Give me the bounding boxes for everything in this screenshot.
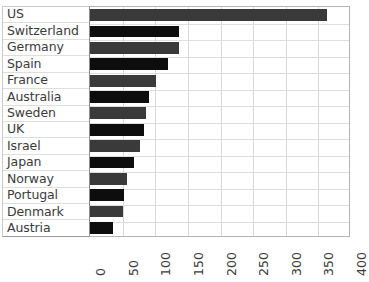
bar bbox=[90, 173, 127, 185]
bar bbox=[90, 157, 134, 169]
bar-row bbox=[90, 56, 349, 72]
x-tick-label: 100 bbox=[160, 252, 173, 276]
bar-row bbox=[90, 187, 349, 203]
bar-row bbox=[90, 138, 349, 154]
bar bbox=[90, 189, 124, 201]
category-label: Sweden bbox=[3, 106, 89, 122]
chart-title bbox=[86, 0, 326, 4]
x-tick-label: 50 bbox=[128, 260, 141, 276]
bar-row bbox=[90, 122, 349, 138]
category-label: Germany bbox=[3, 40, 89, 56]
bar bbox=[90, 124, 144, 136]
category-label: Denmark bbox=[3, 204, 89, 220]
category-label: Japan bbox=[3, 155, 89, 171]
category-label: Switzerland bbox=[3, 23, 89, 39]
bar-row bbox=[90, 89, 349, 105]
category-label: Spain bbox=[3, 56, 89, 72]
bar-row bbox=[90, 72, 349, 88]
bar-row bbox=[90, 7, 349, 23]
bar-row bbox=[90, 171, 349, 187]
x-tick-label: 0 bbox=[95, 268, 108, 276]
bar bbox=[90, 42, 179, 54]
category-label: Austria bbox=[3, 220, 89, 235]
x-axis: 050100150200250300350400 bbox=[89, 238, 350, 282]
bar bbox=[90, 107, 146, 119]
bar-row bbox=[90, 203, 349, 219]
x-tick-label: 300 bbox=[291, 252, 304, 276]
bar-row bbox=[90, 154, 349, 170]
category-label: Portugal bbox=[3, 188, 89, 204]
category-label: US bbox=[3, 7, 89, 23]
category-label: UK bbox=[3, 122, 89, 138]
bar bbox=[90, 58, 168, 70]
category-label: France bbox=[3, 73, 89, 89]
bar bbox=[90, 9, 327, 21]
category-label: Israel bbox=[3, 138, 89, 154]
x-tick-label: 400 bbox=[356, 252, 369, 276]
x-tick-label: 150 bbox=[193, 252, 206, 276]
x-tick-label: 250 bbox=[258, 252, 271, 276]
bar bbox=[90, 26, 179, 38]
category-label: Norway bbox=[3, 171, 89, 187]
category-label-column: USSwitzerlandGermanySpainFranceAustralia… bbox=[2, 6, 89, 237]
bar-row bbox=[90, 105, 349, 121]
bars-layer bbox=[90, 7, 349, 236]
bar bbox=[90, 222, 113, 234]
bar bbox=[90, 206, 123, 218]
x-tick-label: 200 bbox=[226, 252, 239, 276]
bar-row bbox=[90, 220, 349, 236]
bar bbox=[90, 140, 140, 152]
bar-row bbox=[90, 23, 349, 39]
plot-area bbox=[89, 6, 350, 237]
bar bbox=[90, 75, 156, 87]
bar bbox=[90, 91, 149, 103]
bar-row bbox=[90, 40, 349, 56]
category-label: Australia bbox=[3, 89, 89, 105]
x-tick-label: 350 bbox=[323, 252, 336, 276]
